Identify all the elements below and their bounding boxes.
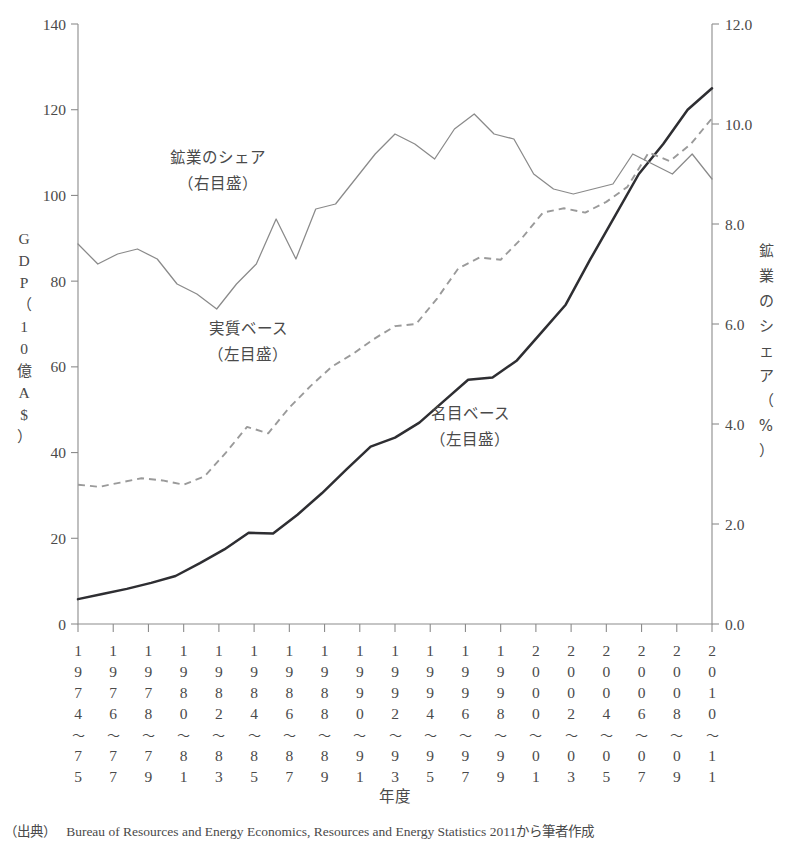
x-tick-label-char: 0 — [180, 705, 188, 722]
x-tick-label-char: 2 — [638, 642, 646, 659]
y2-tick-label: 4.0 — [725, 416, 745, 433]
x-tick-label-char: 0 — [638, 747, 646, 764]
x-tick-label-char: 9 — [426, 663, 434, 680]
series-annotation: 実質ベース — [209, 320, 288, 338]
x-tick-label-char: 0 — [708, 663, 716, 680]
y2-axis-title-char: 業 — [759, 267, 774, 285]
x-tick-label-char: 0 — [532, 705, 540, 722]
y-tick-label: 40 — [51, 444, 67, 461]
x-tick-label-char: 6 — [285, 705, 293, 722]
x-tick-label-char: 1 — [497, 642, 505, 659]
y-tick-label: 0 — [58, 616, 66, 633]
x-tick-label-char: 8 — [321, 747, 329, 764]
series-annotation: 鉱業のシェア — [170, 149, 266, 167]
x-tick-label-char: 〜 — [529, 728, 542, 743]
x-tick-label-char: 9 — [462, 663, 470, 680]
y-tick-label: 80 — [51, 273, 67, 290]
x-tick-label-char: 0 — [356, 705, 364, 722]
x-tick-label-char: 8 — [180, 747, 188, 764]
x-tick-label-char: 9 — [321, 768, 329, 785]
x-tick-label-char: 7 — [74, 684, 82, 701]
x-tick-label-char: 2 — [673, 642, 681, 659]
y-tick-label: 140 — [43, 16, 67, 33]
x-tick-labels: 1974〜751976〜771978〜791980〜811982〜831984〜… — [72, 642, 719, 806]
x-tick-label-char: 0 — [708, 705, 716, 722]
x-tick-label-char: 〜 — [494, 728, 507, 743]
x-tick-label-char: 1 — [109, 642, 117, 659]
x-tick-label-char: 9 — [391, 747, 399, 764]
x-tick-label-char: 〜 — [635, 728, 648, 743]
x-tick-label-char: 2 — [567, 642, 575, 659]
annotations: 鉱業のシェア（右目盛）実質ベース（左目盛）名目ベース（左目盛） — [170, 149, 510, 449]
x-tick-label-char: 6 — [638, 705, 646, 722]
chart-container: 0204060801001201400.02.04.06.08.010.012.… — [0, 0, 790, 841]
y-axis-title-char: G — [18, 230, 29, 247]
x-tick-label-char: 0 — [638, 663, 646, 680]
x-tick-label-char: 2 — [532, 642, 540, 659]
y2-tick-label: 8.0 — [725, 216, 745, 233]
gdp-mining-share-chart: 0204060801001201400.02.04.06.08.010.012.… — [0, 0, 790, 841]
x-tick-label-char: 0 — [673, 747, 681, 764]
x-tick-label-char: 7 — [462, 768, 470, 785]
x-tick-label-char: 7 — [109, 768, 117, 785]
x-tick-label-char: 1 — [391, 642, 399, 659]
x-tick-label-char: 〜 — [248, 728, 261, 743]
x-tick-label-char: 1 — [708, 747, 716, 764]
x-tick-label-char: 9 — [285, 663, 293, 680]
y2-tick-label: 2.0 — [725, 516, 745, 533]
x-tick-label-char: 〜 — [142, 728, 155, 743]
x-tick-label-char: 0 — [567, 747, 575, 764]
x-tick-label-char: 〜 — [72, 728, 85, 743]
x-tick-label-char: 7 — [638, 768, 646, 785]
x-tick-label-char: 2 — [602, 642, 610, 659]
x-tick-label-char: 2 — [708, 642, 716, 659]
y-axis-title-char: 0 — [20, 340, 28, 357]
x-tick-label-char: 1 — [462, 642, 470, 659]
x-tick-label-char: 8 — [250, 747, 258, 764]
x-tick-label-char: 5 — [602, 768, 610, 785]
x-tick-label-char: 2 — [215, 705, 223, 722]
x-tick-label-char: 7 — [109, 747, 117, 764]
x-tick-label-char: 6 — [109, 705, 117, 722]
x-tick-label-char: 0 — [602, 663, 610, 680]
x-tick-label-char: 〜 — [600, 728, 613, 743]
x-tick-label-char: 6 — [462, 705, 470, 722]
x-tick-label-char: 1 — [532, 768, 540, 785]
y-axis-title-char: ） — [17, 428, 32, 446]
y-tick-label: 100 — [43, 187, 67, 204]
x-tick-label-char: 1 — [74, 642, 82, 659]
series-annotation: （右目盛） — [178, 175, 258, 193]
x-tick-label-char: 9 — [321, 663, 329, 680]
source-text: Bureau of Resources and Energy Economics… — [66, 824, 516, 839]
y2-axis-title-char: 鉱 — [759, 242, 774, 260]
y2-axis-title-char: ） — [759, 442, 774, 460]
x-tick-label-char: 2 — [391, 705, 399, 722]
y-axis-title-char: D — [18, 252, 29, 269]
x-tick-label-char: 3 — [567, 768, 575, 785]
x-tick-label-char: 8 — [180, 684, 188, 701]
x-tick-label-char: 0 — [532, 663, 540, 680]
y2-tick-label: 12.0 — [725, 16, 752, 33]
x-tick-label-char: 〜 — [389, 728, 402, 743]
y2-axis-title: 鉱業のシェア（%） — [759, 242, 774, 460]
x-tick-label-char: 9 — [356, 684, 364, 701]
x-tick-label-char: 1 — [356, 642, 364, 659]
x-tick-label-char: 1 — [180, 642, 188, 659]
x-tick-label-char: 0 — [532, 684, 540, 701]
y2-axis-title-char: ア — [759, 367, 774, 385]
x-tick-label-char: 1 — [180, 768, 188, 785]
x-tick-label-char: 8 — [321, 684, 329, 701]
x-tick-label-char: 〜 — [670, 728, 683, 743]
x-tick-label-char: 9 — [426, 747, 434, 764]
x-tick-label-char: 3 — [391, 768, 399, 785]
x-tick-label-char: 3 — [215, 768, 223, 785]
x-tick-label-char: 9 — [673, 768, 681, 785]
x-tick-label-char: 1 — [356, 768, 364, 785]
source-note: （出典） Bureau of Resources and Energy Econ… — [4, 820, 790, 840]
x-tick-label-char: 〜 — [318, 728, 331, 743]
y-axis-title: GDP（10億A$） — [17, 230, 32, 446]
x-tick-label-char: 1 — [285, 642, 293, 659]
x-tick-label-char: 5 — [426, 768, 434, 785]
source-suffix: から筆者作成 — [516, 823, 594, 839]
y2-axis-title-char: % — [759, 417, 773, 435]
